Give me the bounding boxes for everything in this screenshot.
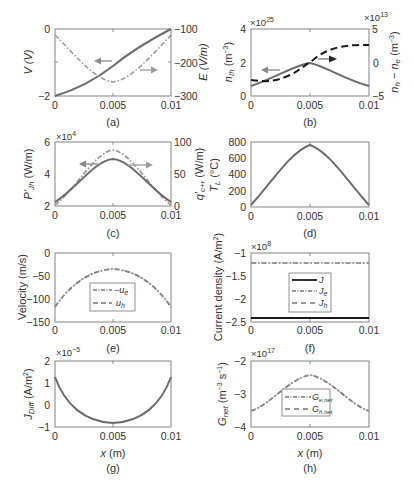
x-tick: 0 xyxy=(52,209,58,221)
y-tick: −2 xyxy=(234,355,246,367)
x-tick: 0 xyxy=(52,430,58,442)
x-tick: 0 xyxy=(52,324,58,336)
series-E xyxy=(55,35,171,82)
y-axis-label: V (V) xyxy=(22,49,34,74)
panel-f: J Je Jh ×108 −1 −1.5 −2 −2.5 0 0.005 0.0… xyxy=(212,233,379,354)
x-tick: 0.005 xyxy=(100,99,126,111)
x-axis-label: x (m) xyxy=(296,447,322,459)
panel-b: ×1025 ×1013 4 2 0 5 0 −5 0 0.005 0.01 nt… xyxy=(222,11,402,128)
y-tick: 0 xyxy=(44,23,50,35)
panel-caption: (e) xyxy=(106,342,119,354)
y-tick-right: 50 xyxy=(174,168,186,180)
y-exponent-right: ×1013 xyxy=(364,11,388,23)
x-tick: 0.01 xyxy=(161,324,182,336)
y-tick: 0 xyxy=(44,247,50,259)
y-tick-right: −200 xyxy=(174,57,198,69)
series-P-Jh xyxy=(55,159,171,202)
series-T-L xyxy=(251,145,369,205)
y-tick: 600 xyxy=(228,152,246,164)
x-tick: 0.005 xyxy=(297,324,323,336)
arrow-right-icon xyxy=(140,67,158,74)
y-tick: 2 xyxy=(44,200,50,212)
x-tick: 0.005 xyxy=(100,209,126,221)
y-tick: −2.5 xyxy=(225,316,246,328)
panel-g: ×10−5 2 1 0 −1 0 0.005 0.01 JDiff (A/m2)… xyxy=(22,346,181,474)
y-tick: −50 xyxy=(32,270,50,282)
arrow-left-icon xyxy=(261,67,280,74)
x-tick: 0.01 xyxy=(359,210,380,222)
y-tick: −2 xyxy=(38,90,50,102)
y-axis-label-right: nh − ne (m−3) xyxy=(388,31,402,92)
panel-d: 800 600 400 200 0 0 0.005 0.01 TL (°C) (… xyxy=(208,136,379,239)
x-tick: 0.01 xyxy=(359,430,380,442)
legend-item: J xyxy=(318,275,324,285)
panel-caption: (f) xyxy=(305,342,315,354)
y-exponent-left: ×1025 xyxy=(250,16,274,28)
x-tick: 0.005 xyxy=(297,99,323,111)
panel-caption: (a) xyxy=(106,116,119,128)
legend: −ue uh xyxy=(90,283,135,311)
y-exponent: ×1017 xyxy=(251,347,275,359)
y-axis-label: Velocity (m/s) xyxy=(16,254,28,320)
y-axis-label: JDiff (A/m2) xyxy=(22,368,36,420)
y-tick: 2 xyxy=(240,57,246,69)
y-tick: −1.5 xyxy=(225,270,246,282)
panel-caption: (g) xyxy=(106,462,119,474)
y-axis-label: Current density (A/m2) xyxy=(212,233,224,341)
x-tick: 0.01 xyxy=(359,99,380,111)
legend: J Je Jh xyxy=(289,273,331,312)
y-exponent: ×108 xyxy=(251,240,271,252)
plot-frame xyxy=(251,142,369,207)
x-tick: 0 xyxy=(248,430,254,442)
x-axis-label: x (m) xyxy=(99,447,125,459)
y-tick: 400 xyxy=(228,168,246,180)
x-tick: 0 xyxy=(52,99,58,111)
y-tick: 6 xyxy=(44,136,50,148)
x-tick: 0.01 xyxy=(359,324,380,336)
y-exponent-left: ×104 xyxy=(56,130,76,142)
y-axis-label: TL (°C) xyxy=(208,158,222,192)
figure-canvas: 0 −2 −100 −200 −300 0 0.005 0.01 V (V) E… xyxy=(0,0,414,490)
x-tick: 0.005 xyxy=(100,430,126,442)
panel-caption: (h) xyxy=(303,462,316,474)
x-tick: 0.01 xyxy=(161,430,182,442)
y-tick-right: 5 xyxy=(372,23,378,35)
x-tick: 0 xyxy=(248,210,254,222)
panel-e: −ue uh 0 −50 −100 −150 0 0.005 0.01 Velo… xyxy=(16,247,181,354)
y-tick: 0 xyxy=(44,399,50,411)
y-tick: −1 xyxy=(38,421,50,433)
panel-caption: (b) xyxy=(303,116,316,128)
x-tick: 0.005 xyxy=(297,210,323,222)
y-tick: 0 xyxy=(240,90,246,102)
y-tick: 0 xyxy=(240,201,246,213)
y-tick: −4 xyxy=(234,421,246,433)
series-J-Diff xyxy=(55,377,171,423)
plot-frame xyxy=(55,142,171,206)
y-axis-label-right: E (V/m) xyxy=(197,43,209,81)
arrow-right-icon xyxy=(318,56,337,63)
panel-a: 0 −2 −100 −200 −300 0 0.005 0.01 V (V) E… xyxy=(22,23,209,128)
series-V xyxy=(55,29,171,96)
y-tick-right: 100 xyxy=(174,136,192,148)
y-tick: 1 xyxy=(44,377,50,389)
y-tick: −150 xyxy=(26,316,50,328)
panel-c: ×104 6 4 2 100 50 0 0 0.005 0.01 P'Jh (W… xyxy=(22,130,207,239)
x-tick: 0.005 xyxy=(100,324,126,336)
y-tick: 2 xyxy=(44,355,50,367)
panel-h: Ge,net Gh,net ×1017 −2 −3 −4 0 0.005 0.0… xyxy=(216,347,379,474)
y-axis-label-right: q'c+r (W/m) xyxy=(193,148,207,201)
x-tick: 0.01 xyxy=(161,99,182,111)
y-tick: −2 xyxy=(234,293,246,305)
y-tick-right: 0 xyxy=(373,57,379,69)
y-axis-label: P'Jh (W/m) xyxy=(22,149,36,200)
y-axis-label: Gnet (m−3 s−1) xyxy=(216,362,230,426)
plot-frame xyxy=(55,361,171,427)
x-tick: 0.01 xyxy=(161,209,182,221)
y-exponent: ×10−5 xyxy=(56,346,80,358)
panel-caption: (c) xyxy=(107,227,120,239)
legend: Ge,net Gh,net xyxy=(282,389,333,416)
y-tick: 800 xyxy=(228,136,246,148)
y-axis-label: nth (m−3) xyxy=(222,42,236,82)
arrow-left-icon xyxy=(94,58,112,65)
y-tick: 200 xyxy=(228,185,246,197)
